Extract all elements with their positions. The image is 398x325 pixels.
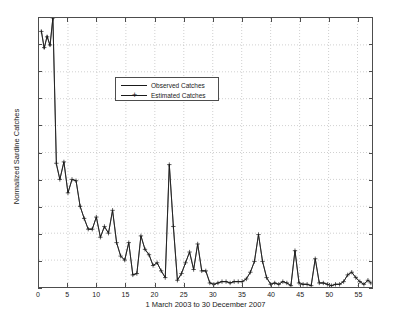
y-tick-mark: [369, 153, 373, 154]
x-tick-mark: [271, 283, 272, 288]
x-tick-label: 40: [267, 291, 275, 298]
x-tick-mark: [184, 283, 185, 288]
series-markers-estimated: [39, 18, 372, 287]
x-tick-mark: [155, 17, 156, 22]
legend-line-sample-observed: [121, 81, 147, 90]
x-tick-label: 15: [121, 291, 129, 298]
x-tick-mark: [125, 17, 126, 22]
y-tick-mark: [369, 71, 373, 72]
plot-area: [38, 17, 373, 288]
x-tick-mark: [358, 283, 359, 288]
x-tick-mark: [213, 17, 214, 22]
x-tick-label: 25: [180, 291, 188, 298]
x-tick-label: 20: [151, 291, 159, 298]
y-tick-mark: [369, 98, 373, 99]
y-tick-mark: [369, 288, 373, 289]
y-axis-label: Normalized Sardine Catches: [12, 67, 21, 247]
x-tick-mark: [38, 283, 39, 288]
y-tick-mark: [38, 234, 42, 235]
x-tick-mark: [300, 17, 301, 22]
x-tick-mark: [125, 283, 126, 288]
x-tick-mark: [271, 17, 272, 22]
x-tick-mark: [184, 17, 185, 22]
legend-item-observed: Observed Catches: [116, 80, 218, 90]
y-tick-mark: [369, 180, 373, 181]
chart-legend: Observed Catches + Estimated Catches: [115, 77, 219, 101]
x-tick-mark: [213, 283, 214, 288]
chart-figure: Normalized Sardine Catches 1 March 2003 …: [0, 0, 398, 325]
legend-label-observed: Observed Catches: [147, 82, 205, 89]
x-tick-label: 5: [65, 291, 69, 298]
y-tick-mark: [38, 44, 42, 45]
y-tick-mark: [369, 207, 373, 208]
series-line-estimated: [41, 18, 371, 286]
y-tick-mark: [38, 153, 42, 154]
y-tick-mark: [38, 207, 42, 208]
x-tick-label: 50: [325, 291, 333, 298]
x-tick-mark: [67, 17, 68, 22]
x-tick-label: 10: [92, 291, 100, 298]
y-tick-mark: [369, 125, 373, 126]
x-tick-label: 30: [209, 291, 217, 298]
x-axis-label: 1 March 2003 to 30 December 2007: [38, 300, 373, 309]
x-tick-mark: [96, 283, 97, 288]
x-tick-mark: [329, 283, 330, 288]
x-tick-label: 0: [36, 291, 40, 298]
y-tick-mark: [38, 98, 42, 99]
series-line-observed: [41, 18, 371, 286]
y-tick-mark: [38, 180, 42, 181]
legend-line-sample-estimated: +: [121, 91, 147, 100]
data-series-layer: [39, 18, 372, 287]
x-tick-mark: [358, 17, 359, 22]
x-tick-mark: [96, 17, 97, 22]
x-tick-label: 35: [238, 291, 246, 298]
x-tick-label: 45: [296, 291, 304, 298]
legend-item-estimated: + Estimated Catches: [116, 90, 218, 100]
y-tick-mark: [38, 288, 42, 289]
legend-label-estimated: Estimated Catches: [147, 92, 206, 99]
y-tick-mark: [38, 261, 42, 262]
y-tick-mark: [38, 125, 42, 126]
y-tick-mark: [38, 71, 42, 72]
y-tick-mark: [369, 17, 373, 18]
x-tick-mark: [155, 283, 156, 288]
x-tick-mark: [242, 283, 243, 288]
x-tick-mark: [242, 17, 243, 22]
x-tick-mark: [38, 17, 39, 22]
y-tick-mark: [369, 234, 373, 235]
y-tick-mark: [369, 261, 373, 262]
x-tick-label: 55: [355, 291, 363, 298]
x-tick-mark: [67, 283, 68, 288]
y-tick-mark: [369, 44, 373, 45]
x-tick-mark: [329, 17, 330, 22]
x-tick-mark: [300, 283, 301, 288]
